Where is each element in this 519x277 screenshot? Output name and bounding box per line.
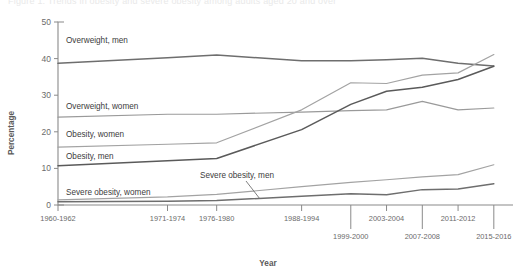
chart-container: Figure 1. Trends in obesity and severe o… xyxy=(0,0,519,277)
x-tick-label: 1960-1962 xyxy=(40,214,75,223)
y-tick-label: 10 xyxy=(42,163,52,173)
series-inline-label: Severe obesity, men xyxy=(200,171,274,180)
series-inline-label: Overweight, women xyxy=(66,102,139,111)
x-tick-label: 2011-2012 xyxy=(441,214,476,223)
series-inline-label: Obesity, women xyxy=(66,130,125,139)
y-tick-label: 30 xyxy=(42,90,52,100)
chart-series-layer xyxy=(58,55,494,202)
chart-axes: 010203040501960-19621971-19741976-198019… xyxy=(40,17,513,241)
x-tick-label: 1999-2000 xyxy=(333,232,368,241)
x-tick-label: 2007-2008 xyxy=(405,232,440,241)
severe-obesity-men-leader-line xyxy=(246,181,260,199)
line-chart-svg: 010203040501960-19621971-19741976-198019… xyxy=(0,0,519,277)
x-axis-title: Year xyxy=(259,259,277,268)
y-axis xyxy=(58,22,64,205)
y-tick-label: 40 xyxy=(42,54,52,64)
series-inline-label: Obesity, men xyxy=(66,152,114,161)
x-tick-label: 1971-1974 xyxy=(150,214,185,223)
x-tick-label: 1988-1994 xyxy=(284,214,319,223)
y-tick-label: 20 xyxy=(42,127,52,137)
y-tick-label: 0 xyxy=(46,200,51,210)
x-tick-label: 2003-2004 xyxy=(369,214,404,223)
y-axis-title: Percentage xyxy=(7,110,16,155)
x-tick-label: 1976-1980 xyxy=(199,214,234,223)
series-line xyxy=(58,66,494,166)
chart-inline-labels: Overweight, menOverweight, womenObesity,… xyxy=(66,36,274,199)
series-line xyxy=(58,55,494,66)
y-tick-label: 50 xyxy=(42,17,52,27)
series-inline-label: Overweight, men xyxy=(66,36,128,45)
x-tick-label: 2015-2016 xyxy=(476,232,511,241)
series-inline-label: Severe obesity, women xyxy=(66,188,151,197)
